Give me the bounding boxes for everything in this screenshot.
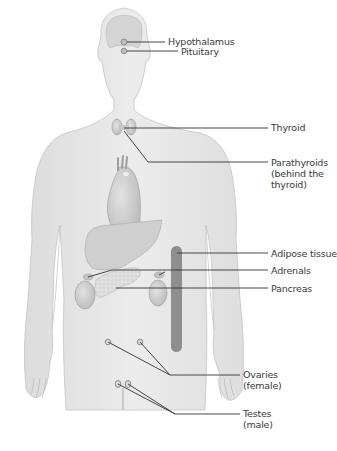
adipose-tissue <box>171 246 182 352</box>
pituitary-marker <box>121 48 127 54</box>
label-adrenals: Adrenals <box>271 265 311 276</box>
hypothalamus-marker <box>121 39 127 45</box>
label-thyroid: Thyroid <box>271 122 305 133</box>
label-pancreas: Pancreas <box>271 283 312 294</box>
label-parathyroids: Parathyroids (behind the thyroid) <box>271 157 328 190</box>
label-testes: Testes (male) <box>243 408 273 430</box>
label-adipose-tissue: Adipose tissue <box>271 248 337 259</box>
label-ovaries: Ovaries (female) <box>243 369 282 391</box>
label-pituitary: Pituitary <box>181 46 219 57</box>
